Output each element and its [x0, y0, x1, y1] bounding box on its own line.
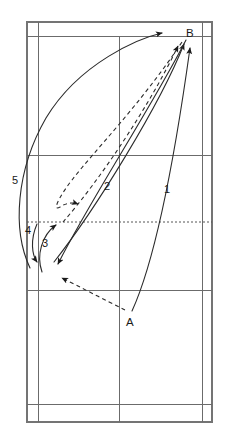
trajectory-2: [54, 40, 186, 264]
trajectory-1-path: [132, 48, 190, 311]
trajectory-dashed-feed-path: [62, 278, 125, 310]
trajectory-4-path: [32, 224, 37, 262]
shot-label-2: 2: [104, 180, 110, 192]
court-diagram-root: B A 1 2 3 4 5: [0, 0, 226, 443]
trajectory-4: [32, 224, 37, 262]
shot-label-1: 1: [164, 183, 170, 195]
point-label-b: B: [186, 27, 194, 39]
shot-label-3: 3: [42, 237, 48, 249]
point-label-a: A: [126, 316, 134, 328]
trajectory-1: [132, 48, 190, 311]
trajectory-5-path: [19, 33, 162, 268]
shot-label-4: 4: [25, 224, 31, 236]
court-lines-group: [27, 22, 212, 422]
trajectory-5: [19, 33, 162, 268]
shot-label-5: 5: [12, 174, 18, 186]
trajectory-dashed-feed: [62, 278, 125, 310]
labels-group: B A 1 2 3 4 5: [12, 27, 194, 328]
badminton-court-diagram: B A 1 2 3 4 5: [0, 0, 226, 443]
